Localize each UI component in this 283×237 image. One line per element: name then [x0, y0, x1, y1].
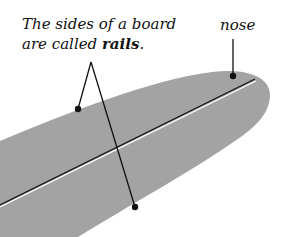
caption-line-2: are called rails. [22, 34, 176, 54]
caption-line-2-prefix: are called [22, 35, 102, 53]
caption-line-1: The sides of a board [22, 14, 176, 34]
surfboard-diagram: The sides of a board are called rails. n… [0, 0, 283, 237]
rails-term: rails [102, 35, 139, 53]
rail-pointer-left [78, 62, 91, 109]
rail-dot-bottom [132, 204, 138, 210]
nose-dot [230, 73, 236, 79]
rail-dot-top [75, 106, 81, 112]
surfboard-body [0, 71, 270, 237]
rails-caption: The sides of a board are called rails. [22, 14, 176, 54]
nose-label: nose [220, 16, 255, 34]
caption-line-2-suffix: . [139, 35, 144, 53]
